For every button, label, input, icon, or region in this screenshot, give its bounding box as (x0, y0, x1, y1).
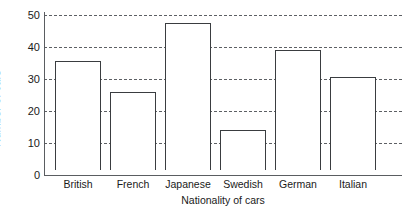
x-tick-label-swedish: Swedish (216, 177, 270, 192)
bar-series (44, 10, 402, 175)
x-axis-title: Nationality of cars (44, 194, 402, 206)
bar-british (55, 61, 101, 170)
x-tick-label-japanese: Japanese (161, 177, 215, 192)
x-axis-category-labels: BritishFrenchJapaneseSwedishGermanItalia… (44, 177, 402, 193)
y-tick-label-20: 20 (0, 106, 40, 117)
bar-japanese (165, 23, 211, 170)
y-tick-label-30: 30 (0, 74, 40, 85)
x-tick-label-german: German (271, 177, 325, 192)
x-tick-label-french: French (106, 177, 160, 192)
y-tick-label-10: 10 (0, 138, 40, 149)
y-tick-label-50: 50 (0, 10, 40, 21)
y-axis-tick-labels: 01020304050 (0, 10, 40, 180)
plot-area (44, 10, 402, 180)
x-tick-label-italian: Italian (326, 177, 380, 192)
bar-german (275, 50, 321, 170)
bar-chart: Number of cars 01020304050 BritishFrench… (0, 0, 412, 217)
y-tick-label-0: 0 (0, 170, 40, 181)
bar-swedish (220, 130, 266, 170)
x-tick-label-british: British (51, 177, 105, 192)
bar-italian (330, 77, 376, 170)
y-tick-label-40: 40 (0, 42, 40, 53)
bar-french (110, 92, 156, 170)
